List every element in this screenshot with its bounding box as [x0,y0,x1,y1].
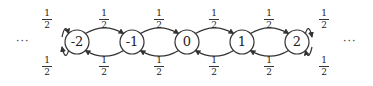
state-label: -1 [120,34,144,50]
right-ellipsis: ··· [343,35,357,48]
transition-probability: 12 [262,9,276,30]
transition-probability: 12 [97,56,111,77]
state-label: 1 [230,34,254,50]
state-label: 2 [285,34,309,50]
transition-probability: 12 [152,56,166,77]
transition-probability: 12 [40,56,54,77]
transition-probability: 12 [152,9,166,30]
random-walk-diagram: ··· ··· -2-1012121212121212121212121212 [0,0,373,86]
state-label: -2 [65,34,89,50]
transition-probability: 12 [262,56,276,77]
transition-probability: 12 [40,9,54,30]
transition-probability: 12 [207,9,221,30]
left-ellipsis: ··· [16,35,30,48]
transition-probability: 12 [317,56,331,77]
state-label: 0 [175,34,199,50]
transition-probability: 12 [207,56,221,77]
transition-probability: 12 [317,9,331,30]
transition-probability: 12 [97,9,111,30]
